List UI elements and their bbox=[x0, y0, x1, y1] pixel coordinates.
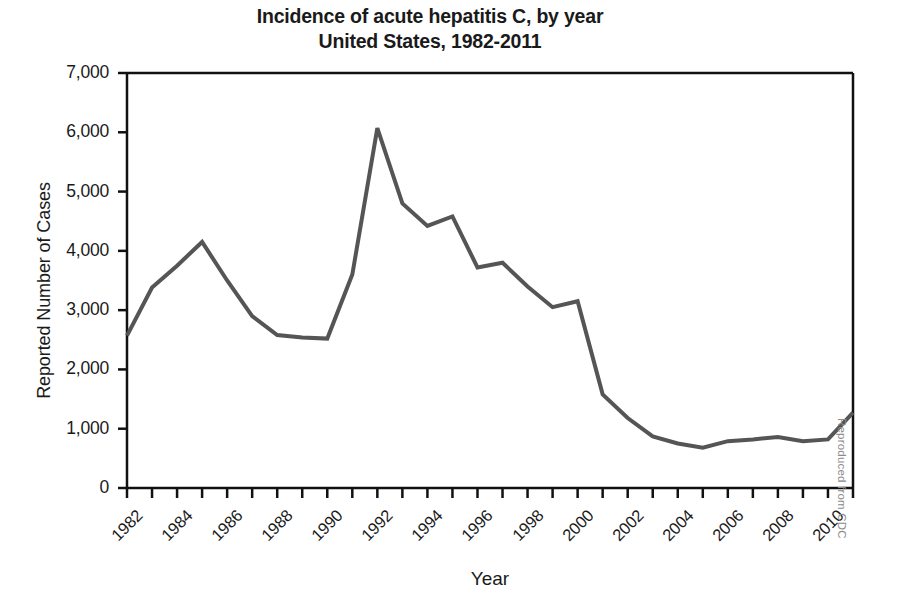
data-series-line bbox=[127, 128, 853, 448]
y-tick-label: 0 bbox=[23, 477, 109, 498]
y-tick-label: 7,000 bbox=[23, 62, 109, 83]
source-credit: Reproduced from CDC bbox=[836, 418, 848, 614]
x-axis-title: Year bbox=[127, 568, 853, 590]
chart-axes bbox=[127, 73, 853, 488]
chart-figure: Incidence of acute hepatitis C, by year … bbox=[0, 0, 908, 614]
y-tick-label: 6,000 bbox=[23, 121, 109, 142]
y-axis-title: Reported Number of Cases bbox=[34, 151, 55, 431]
